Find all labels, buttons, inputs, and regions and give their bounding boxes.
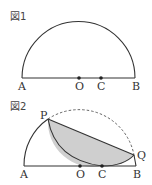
figure2-title: 図2: [10, 102, 26, 112]
label-a: A: [20, 169, 28, 180]
label-c: C: [97, 81, 105, 92]
label-p: P: [40, 110, 47, 121]
shaded-region: [48, 119, 134, 167]
label-q: Q: [137, 150, 146, 161]
label-a: A: [18, 81, 26, 92]
label-c: C: [98, 169, 106, 180]
segment-qb: [134, 155, 136, 166]
label-o: O: [75, 81, 84, 92]
label-b: B: [133, 169, 141, 180]
label-o: O: [76, 169, 85, 180]
label-b: B: [132, 81, 140, 92]
solid-arc-ap: [24, 119, 48, 166]
figure1-title: 図1: [10, 12, 26, 22]
